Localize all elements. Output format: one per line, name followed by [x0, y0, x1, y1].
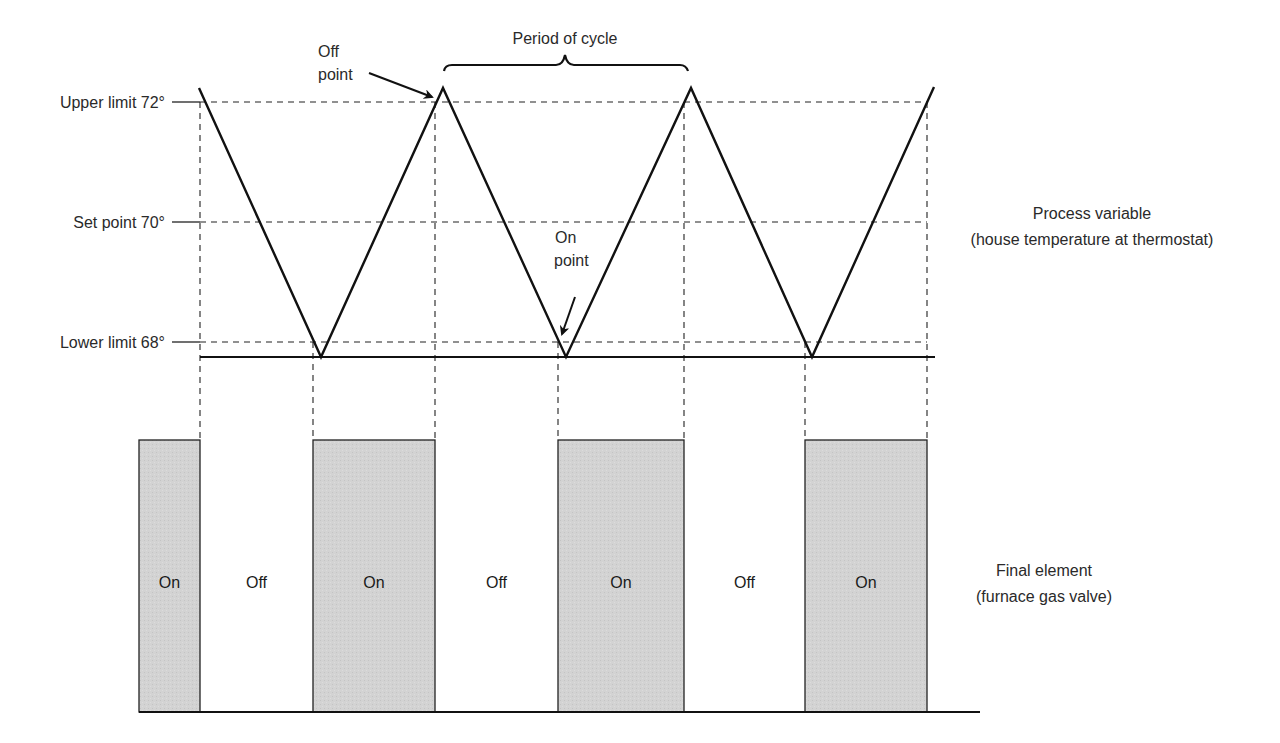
final-element-title: Final element	[996, 562, 1093, 579]
upper-limit-label: Upper limit 72°	[60, 94, 165, 111]
on-off-control-diagram: OnOffOnOffOnOffOn Upper limit 72° Set po…	[0, 0, 1280, 743]
curly-brace-icon	[444, 55, 688, 71]
period-of-cycle-annotation: Period of cycle	[444, 30, 688, 71]
off-point-arrow-icon	[369, 73, 432, 97]
period-of-cycle-label: Period of cycle	[513, 30, 618, 47]
off-point-label-line2: point	[318, 66, 353, 83]
valve-off-label: Off	[246, 574, 268, 591]
off-point-label-line1: Off	[318, 43, 340, 60]
final-element-valve-states: OnOffOnOffOnOffOn	[139, 440, 980, 712]
set-point-label: Set point 70°	[73, 214, 165, 231]
process-variable-caption: Process variable (house temperature at t…	[971, 205, 1214, 248]
valve-off-label: Off	[734, 574, 756, 591]
valve-on-label: On	[159, 574, 180, 591]
valve-on-label: On	[610, 574, 631, 591]
final-element-caption: Final element (furnace gas valve)	[976, 562, 1112, 605]
on-point-label-line2: point	[554, 252, 589, 269]
on-point-label-line1: On	[555, 229, 576, 246]
lower-limit-label: Lower limit 68°	[60, 334, 165, 351]
process-variable-title: Process variable	[1033, 205, 1151, 222]
on-point-arrow-icon	[562, 297, 575, 334]
off-point-annotation: Off point	[318, 43, 432, 97]
reference-dashed-lines	[200, 102, 927, 440]
valve-off-label: Off	[486, 574, 508, 591]
valve-on-label: On	[363, 574, 384, 591]
y-axis-labels: Upper limit 72° Set point 70° Lower limi…	[60, 94, 200, 351]
process-variable-subtitle: (house temperature at thermostat)	[971, 231, 1214, 248]
final-element-subtitle: (furnace gas valve)	[976, 588, 1112, 605]
valve-on-label: On	[855, 574, 876, 591]
